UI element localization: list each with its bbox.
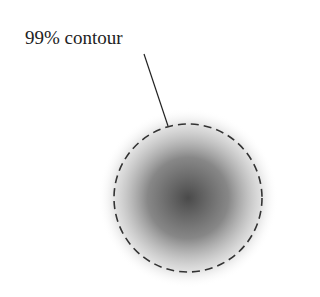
gaussian-blob [98,108,278,288]
contour-label: 99% contour [25,27,123,49]
